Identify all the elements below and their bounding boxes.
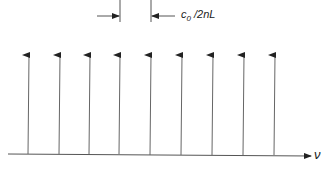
axis-label: ν xyxy=(314,147,321,162)
mode-diagram xyxy=(0,0,329,175)
spacing-label: c0 /2nL xyxy=(181,8,215,23)
mode-arrow xyxy=(119,55,120,154)
mode-arrows xyxy=(28,55,275,155)
mode-arrow xyxy=(89,55,90,154)
mode-arrow xyxy=(59,55,60,154)
mode-arrow xyxy=(243,55,244,155)
mode-arrow xyxy=(28,55,29,154)
mode-arrow xyxy=(212,55,213,155)
mode-arrow xyxy=(274,55,275,155)
frequency-axis xyxy=(8,154,311,156)
mode-arrow xyxy=(150,55,151,155)
mode-arrow xyxy=(181,55,182,155)
spacing-dimension xyxy=(97,0,175,22)
